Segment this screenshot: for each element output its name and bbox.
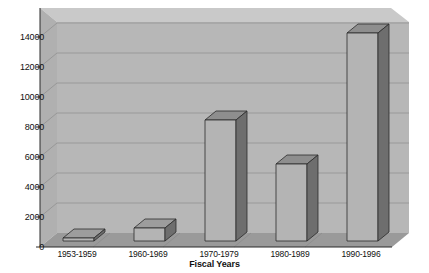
x-tick-label-1960-1969: 1960-1969 [109, 250, 187, 259]
bar-chart: 0 2000 4000 6000 8000 10000 12000 14000 … [0, 0, 429, 273]
x-tick-label-1990-1996: 1990-1996 [322, 250, 400, 259]
x-tick-label-1953-1959: 1953-1959 [38, 250, 116, 259]
x-axis-labels: 1953-1959 1960-1969 1970-1979 1980-1989 … [0, 0, 429, 273]
x-tick-label-1980-1989: 1980-1989 [251, 250, 329, 259]
x-tick-label-1970-1979: 1970-1979 [180, 250, 258, 259]
x-axis-title: Fiscal Years [0, 259, 429, 269]
